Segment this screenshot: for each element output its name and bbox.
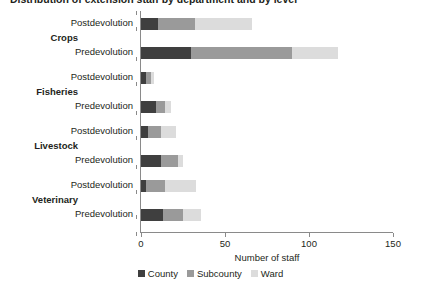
bar-segment-subcounty: [156, 101, 164, 113]
y-tick-mark: [136, 215, 137, 219]
legend-swatch-icon: [187, 270, 194, 277]
y-tick-mark: [136, 57, 137, 61]
bar-segment-subcounty: [163, 209, 183, 221]
legend-label: Subcounty: [197, 268, 242, 279]
x-tick-label: 0: [121, 238, 161, 249]
bar-segment-ward: [165, 180, 197, 192]
bar-row: [141, 180, 196, 192]
bar-segment-county: [141, 47, 191, 59]
bar-segment-subcounty: [146, 180, 164, 192]
legend-label: County: [148, 268, 178, 279]
y-tick-mark: [136, 82, 137, 86]
x-tick-mark: [393, 233, 394, 237]
y-axis-row-label: Postdevolution: [71, 17, 133, 28]
chart-legend: CountySubcountyWard: [0, 268, 421, 279]
y-axis-row-label: Predevolution: [75, 100, 133, 111]
x-tick-mark: [309, 233, 310, 237]
bar-segment-ward: [292, 47, 337, 59]
legend-label: Ward: [261, 268, 283, 279]
bar-segment-county: [141, 209, 163, 221]
y-tick-mark: [136, 136, 137, 140]
y-axis-row-label: Postdevolution: [71, 125, 133, 136]
x-tick-label: 50: [205, 238, 245, 249]
y-tick-mark: [136, 27, 137, 31]
bar-segment-ward: [178, 155, 183, 167]
bar-row: [141, 101, 171, 113]
bar-segment-subcounty: [161, 155, 178, 167]
y-axis-row-label: Postdevolution: [71, 179, 133, 190]
y-axis-row-label: Predevolution: [75, 46, 133, 57]
x-tick-label: 100: [289, 238, 329, 249]
bar-segment-subcounty: [191, 47, 292, 59]
legend-item: Ward: [251, 268, 283, 279]
bar-row: [141, 18, 252, 30]
bar-segment-ward: [161, 126, 176, 138]
x-tick-mark: [141, 233, 142, 237]
bar-row: [141, 72, 154, 84]
bar-row: [141, 209, 201, 221]
y-axis-group-label: Livestock: [0, 140, 78, 151]
bar-segment-ward: [183, 209, 201, 221]
bar-segment-subcounty: [158, 18, 195, 30]
bar-segment-county: [141, 18, 158, 30]
y-tick-mark: [136, 190, 137, 194]
y-tick-mark: [136, 111, 137, 115]
x-tick-mark: [225, 233, 226, 237]
bar-row: [141, 47, 338, 59]
x-tick-label: 150: [373, 238, 413, 249]
legend-swatch-icon: [251, 270, 258, 277]
bar-segment-ward: [151, 72, 154, 84]
bar-row: [141, 126, 176, 138]
bar-segment-county: [141, 155, 161, 167]
bar-row: [141, 155, 183, 167]
bar-segment-subcounty: [148, 126, 161, 138]
y-axis-row-label: Predevolution: [75, 154, 133, 165]
bar-segment-county: [141, 126, 148, 138]
bar-segment-ward: [195, 18, 252, 30]
y-axis-row-label: Predevolution: [75, 208, 133, 219]
bar-segment-county: [141, 101, 156, 113]
legend-item: County: [138, 268, 178, 279]
plot-area: [141, 11, 393, 233]
x-axis-title: Number of staff: [141, 252, 393, 263]
legend-swatch-icon: [138, 270, 145, 277]
y-axis-row-label: Postdevolution: [71, 71, 133, 82]
y-axis-group-label: Crops: [0, 32, 78, 43]
legend-item: Subcounty: [187, 268, 242, 279]
y-tick-mark: [136, 11, 137, 15]
y-tick-mark: [136, 232, 137, 236]
chart-container: Distribution of extension staff by depar…: [0, 0, 421, 295]
y-axis-labels: PostdevolutionPredevolutionPostdevolutio…: [0, 0, 138, 233]
y-axis-group-label: Veterinary: [0, 194, 78, 205]
bar-segment-ward: [165, 101, 172, 113]
y-tick-mark: [136, 165, 137, 169]
y-axis-group-label: Fisheries: [0, 86, 78, 97]
